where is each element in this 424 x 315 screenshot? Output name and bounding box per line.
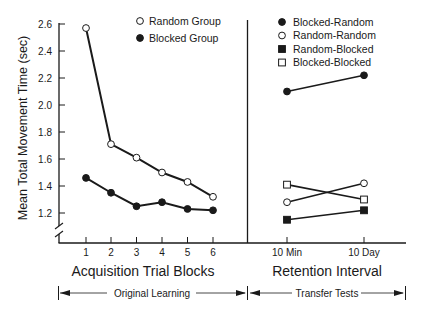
series-random-blocked (284, 207, 368, 223)
x-tick-label: 4 (159, 247, 165, 258)
left-panel-plot (83, 25, 217, 214)
data-point-filled-circle (83, 175, 90, 182)
data-point-open-circle (361, 180, 368, 187)
bracket-label-transfer-tests: Transfer Tests (296, 288, 359, 299)
y-tick-label: 2.2 (38, 73, 52, 84)
series-line (287, 75, 364, 91)
data-point-filled-circle (284, 88, 291, 95)
legend-marker-open-circle (137, 18, 144, 25)
data-point-filled-square (284, 216, 291, 223)
data-point-filled-circle (361, 72, 368, 79)
series-line (86, 28, 213, 197)
x-tick-label: 6 (210, 247, 216, 258)
data-point-filled-square (361, 207, 368, 214)
x-tick-label: 10 Min (272, 247, 302, 258)
legend-label: Blocked-Blocked (293, 56, 371, 68)
data-point-filled-circle (184, 206, 191, 213)
series-blocked-group (83, 175, 217, 214)
x-tick-label: 10 Day (348, 247, 380, 258)
y-tick-label: 2.0 (38, 100, 52, 111)
legend-marker-open-circle (279, 32, 286, 39)
data-point-open-circle (159, 169, 166, 176)
legend-item: Random Group (137, 15, 221, 27)
x-tick-label: 1 (83, 247, 89, 258)
x-axis-title-right: Retention Interval (272, 263, 382, 279)
data-point-filled-circle (133, 203, 140, 210)
y-tick-label: 1.6 (38, 154, 52, 165)
right-panel-plot (284, 72, 368, 223)
legend-marker-filled-square (279, 46, 286, 53)
series-random-group (83, 25, 217, 201)
data-point-open-circle (83, 25, 90, 32)
legend-label: Random Group (149, 15, 221, 27)
data-point-open-circle (184, 179, 191, 186)
data-point-open-square (284, 181, 291, 188)
y-tick-label: 2.4 (38, 46, 52, 57)
data-point-open-square (361, 196, 368, 203)
data-point-open-circle (133, 154, 140, 161)
data-point-open-circle (108, 141, 115, 148)
legend-label: Blocked Group (149, 32, 219, 44)
bracket-label-original-learning: Original Learning (114, 288, 190, 299)
x-axis-title-left: Acquisition Trial Blocks (71, 263, 214, 279)
data-point-filled-circle (210, 207, 217, 214)
data-point-open-circle (210, 193, 217, 200)
legend-item: Blocked Group (137, 32, 219, 44)
bracket-transfer-tests: Transfer Tests (250, 286, 406, 300)
legend-marker-filled-circle (279, 19, 286, 26)
data-point-filled-circle (108, 189, 115, 196)
data-point-filled-circle (159, 199, 166, 206)
legend-item: Random-Random (279, 29, 377, 41)
legend-label: Blocked-Random (293, 16, 374, 28)
bracket-original-learning: Original Learning (59, 286, 248, 300)
series-line (287, 210, 364, 219)
y-tick-label: 1.2 (38, 208, 52, 219)
x-tick-label: 2 (108, 247, 114, 258)
legend-marker-filled-circle (137, 35, 144, 42)
legend-label: Random-Blocked (293, 43, 374, 55)
legend-label: Random-Random (293, 29, 376, 41)
y-tick-label: 1.8 (38, 127, 52, 138)
legend-item: Blocked-Blocked (279, 56, 372, 68)
legends: Random GroupBlocked GroupBlocked-RandomR… (137, 15, 377, 69)
data-point-open-circle (284, 199, 291, 206)
x-tick-label: 5 (185, 247, 191, 258)
chart: 1.21.41.61.82.02.22.42.612345610 Min10 D… (0, 0, 424, 315)
series-line (86, 178, 213, 210)
legend-item: Random-Blocked (279, 43, 374, 55)
y-tick-label: 2.6 (38, 19, 52, 30)
y-tick-label: 1.4 (38, 181, 52, 192)
legend-marker-open-square (279, 59, 286, 66)
legend-item: Blocked-Random (279, 16, 374, 28)
y-axis-title: Mean Total Movement Time (sec) (16, 36, 30, 221)
x-tick-label: 3 (134, 247, 140, 258)
series-blocked-random (284, 72, 368, 95)
